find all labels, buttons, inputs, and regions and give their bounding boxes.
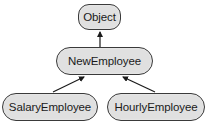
node-new-employee-label: NewEmployee (68, 55, 141, 67)
node-object-label: Object (83, 11, 116, 23)
node-object: Object (78, 4, 121, 30)
node-salary-employee: SalaryEmployee (2, 93, 98, 121)
node-salary-employee-label: SalaryEmployee (9, 101, 91, 113)
edge-salary-employee-to-new-employee (53, 77, 84, 92)
node-new-employee: NewEmployee (56, 47, 153, 75)
node-hourly-employee-label: HourlyEmployee (115, 101, 198, 113)
edge-hourly-employee-to-new-employee (123, 77, 155, 92)
node-hourly-employee: HourlyEmployee (107, 93, 205, 121)
